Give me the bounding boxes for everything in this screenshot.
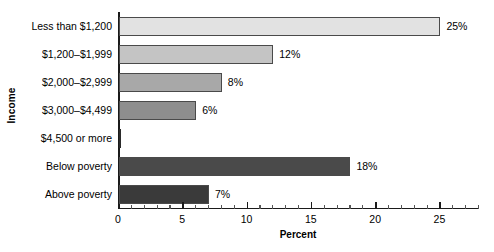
- bar-value-label: 8%: [228, 76, 243, 88]
- bar-value-label: 12%: [279, 48, 300, 60]
- x-axis-minor-tick: [259, 205, 260, 210]
- x-axis-tick-label: 25: [434, 213, 446, 225]
- x-axis-minor-tick: [131, 205, 132, 210]
- x-axis-title: Percent: [280, 229, 317, 240]
- bar-value-label: 7%: [215, 188, 230, 200]
- x-axis-minor-tick: [144, 205, 145, 210]
- x-axis-minor-tick: [169, 205, 170, 210]
- category-label: $3,000–$4,499: [18, 104, 112, 116]
- bar: [119, 157, 350, 176]
- bar: [119, 185, 209, 204]
- x-axis-minor-tick: [324, 205, 325, 210]
- bar: [119, 101, 196, 120]
- bar: [119, 45, 273, 64]
- x-axis-tick-label: 0: [115, 213, 121, 225]
- bar: [119, 17, 440, 36]
- x-axis-minor-tick: [208, 205, 209, 210]
- x-axis-major-tick: [118, 202, 119, 209]
- x-axis-minor-tick: [401, 205, 402, 210]
- x-axis-minor-tick: [221, 205, 222, 210]
- x-axis-minor-tick: [285, 205, 286, 210]
- x-axis-tick-label: 15: [305, 213, 317, 225]
- bar-value-label: 18%: [356, 160, 377, 172]
- category-label: $4,500 or more: [18, 132, 112, 144]
- x-axis-minor-tick: [298, 205, 299, 210]
- x-axis-major-tick: [247, 202, 248, 209]
- x-axis-minor-tick: [362, 205, 363, 210]
- x-axis-minor-tick: [234, 205, 235, 210]
- x-axis-minor-tick: [414, 205, 415, 210]
- x-axis-minor-tick: [452, 205, 453, 210]
- category-axis-labels: Less than $1,200$1,200–$1,999$2,000–$2,9…: [18, 12, 116, 208]
- bar: [119, 129, 121, 148]
- bar-chart: Income Less than $1,200$1,200–$1,999$2,0…: [0, 0, 494, 252]
- bar-value-label: 25%: [446, 20, 467, 32]
- x-axis-minor-tick: [465, 205, 466, 210]
- x-axis-tick-label: 10: [241, 213, 253, 225]
- x-axis-major-tick: [439, 202, 440, 209]
- category-label: $1,200–$1,999: [18, 48, 112, 60]
- x-axis: Percent 0510152025: [118, 208, 480, 252]
- x-axis-major-tick: [375, 202, 376, 209]
- x-axis-tick-label: 20: [369, 213, 381, 225]
- x-axis-minor-tick: [272, 205, 273, 210]
- bar: [119, 73, 222, 92]
- bar-value-label: 6%: [202, 104, 217, 116]
- category-label: Less than $1,200: [18, 20, 112, 32]
- x-axis-minor-tick: [427, 205, 428, 210]
- x-axis-minor-tick: [478, 205, 479, 210]
- category-label: Above poverty: [18, 188, 112, 200]
- category-label: Below poverty: [18, 160, 112, 172]
- x-axis-minor-tick: [349, 205, 350, 210]
- x-axis-major-tick: [311, 202, 312, 209]
- x-axis-minor-tick: [157, 205, 158, 210]
- y-axis-title-label: Income: [6, 87, 17, 123]
- x-axis-minor-tick: [388, 205, 389, 210]
- x-axis-minor-tick: [195, 205, 196, 210]
- x-axis-major-tick: [182, 202, 183, 209]
- x-axis-minor-tick: [337, 205, 338, 210]
- plot-area: 25%12%8%6%18%7%: [118, 12, 478, 208]
- category-label: $2,000–$2,999: [18, 76, 112, 88]
- x-axis-tick-label: 5: [179, 213, 185, 225]
